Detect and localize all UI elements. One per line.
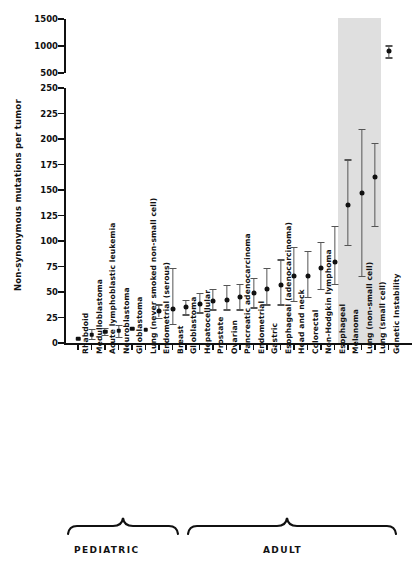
data-point xyxy=(238,295,243,300)
y-tick-mark xyxy=(58,113,64,115)
x-axis-label: Lung (small cell) xyxy=(378,281,387,354)
x-tick-mark xyxy=(145,345,147,350)
y-tick-mark xyxy=(58,72,64,74)
error-bar-cap xyxy=(196,293,203,294)
x-axis-label: Genetic Instability xyxy=(392,273,401,354)
data-point xyxy=(386,49,391,54)
x-tick-mark xyxy=(199,345,201,350)
x-axis-label: Glioblastoma xyxy=(189,297,198,354)
bracket-label-adult: ADULT xyxy=(263,545,302,555)
x-axis-label: Medulloblastoma xyxy=(95,279,104,354)
x-tick-mark xyxy=(307,345,309,350)
y-tick-label: 100 xyxy=(40,236,58,246)
x-tick-mark xyxy=(239,345,241,350)
error-bar-cap xyxy=(331,226,338,227)
x-tick-mark xyxy=(131,345,133,350)
x-tick-mark xyxy=(104,345,106,350)
error-bar-cap xyxy=(277,304,284,305)
y-tick-label: 175 xyxy=(40,160,58,170)
x-axis-label: Esophageal (adenocarcinoma) xyxy=(284,222,293,354)
x-tick-mark xyxy=(158,345,160,350)
data-point xyxy=(184,305,189,310)
data-point xyxy=(346,203,351,208)
error-bar-cap xyxy=(385,45,392,46)
y-tick-mark xyxy=(58,342,64,344)
y-tick-mark xyxy=(58,317,64,319)
y-tick-label: 200 xyxy=(40,134,58,144)
data-point xyxy=(373,174,378,179)
x-axis-label: Head and neck xyxy=(297,289,306,354)
x-tick-mark xyxy=(91,345,93,350)
error-bar xyxy=(374,143,375,226)
y-tick-mark xyxy=(58,189,64,191)
x-axis-label: Hepatocellular xyxy=(203,290,212,354)
x-tick-mark xyxy=(253,345,255,350)
x-axis-label: Endometrial (serous) xyxy=(162,262,171,354)
x-tick-mark xyxy=(320,345,322,350)
x-axis-label: Colorectal xyxy=(311,310,320,354)
x-axis-label: Pancreatic adenocarcinoma xyxy=(243,233,252,354)
x-tick-mark xyxy=(293,345,295,350)
y-tick-mark xyxy=(58,18,64,20)
y-tick-mark xyxy=(58,138,64,140)
error-bar-cap xyxy=(304,251,311,252)
y-tick-label: 75 xyxy=(46,262,58,272)
x-axis-label: Neuroblastoma xyxy=(122,287,131,354)
x-axis-label: Glioblastoma xyxy=(135,297,144,354)
x-axis-label: Lung (non-small cell) xyxy=(365,262,374,354)
y-tick-label: 1500 xyxy=(34,14,58,24)
x-tick-mark xyxy=(77,345,79,350)
error-bar-cap xyxy=(385,57,392,58)
x-axis-label: Rhabdoid xyxy=(81,313,90,354)
error-bar-cap xyxy=(372,226,379,227)
y-tick-label: 500 xyxy=(40,68,58,78)
error-bar-cap xyxy=(358,129,365,130)
x-axis-label: Esophageal xyxy=(338,304,347,354)
data-point xyxy=(319,265,324,270)
y-tick-mark xyxy=(58,291,64,293)
bracket-label-pediatric: PEDIATRIC xyxy=(74,545,139,555)
error-bar xyxy=(361,129,362,276)
y-tick-mark xyxy=(58,266,64,268)
y-tick-mark xyxy=(58,215,64,217)
x-tick-mark xyxy=(226,345,228,350)
x-tick-mark xyxy=(172,345,174,350)
error-bar xyxy=(172,268,173,324)
chart-figure: Non-synonymous mutations per tumor 50010… xyxy=(0,0,415,580)
y-axis-upper-line xyxy=(64,19,66,73)
y-tick-label: 150 xyxy=(40,185,58,195)
x-tick-mark xyxy=(374,345,376,350)
y-tick-mark xyxy=(58,240,64,242)
y-tick-mark xyxy=(58,87,64,89)
data-point xyxy=(76,337,81,342)
x-axis-label: Gastric xyxy=(270,323,279,354)
y-tick-mark xyxy=(58,45,64,47)
data-point xyxy=(265,286,270,291)
x-axis-label: Non-Hodgkin lymphoma xyxy=(324,249,333,354)
y-tick-label: 225 xyxy=(40,109,58,119)
data-point xyxy=(359,191,364,196)
x-axis-label: Breast xyxy=(176,325,185,354)
y-tick-label: 50 xyxy=(46,287,58,297)
x-axis-label: Lung (never smoked non-small cell) xyxy=(149,198,158,354)
x-axis-label: Prostate xyxy=(216,317,225,354)
x-axis-label: Ovarian xyxy=(230,320,239,354)
x-tick-mark xyxy=(334,345,336,350)
x-tick-mark xyxy=(388,345,390,350)
error-bar-cap xyxy=(223,285,230,286)
data-point xyxy=(278,282,283,287)
x-axis-label: Endometrial xyxy=(257,301,266,354)
y-axis-lower-line xyxy=(64,88,66,344)
x-tick-mark xyxy=(266,345,268,350)
x-tick-mark xyxy=(361,345,363,350)
x-axis-label: Melanoma xyxy=(351,309,360,354)
error-bar-cap xyxy=(223,309,230,310)
error-bar-cap xyxy=(264,268,271,269)
y-tick-label: 250 xyxy=(40,83,58,93)
error-bar-cap xyxy=(345,245,352,246)
x-tick-mark xyxy=(347,345,349,350)
error-bar-cap xyxy=(372,143,379,144)
error-bar-cap xyxy=(358,276,365,277)
y-tick-label: 125 xyxy=(40,211,58,221)
x-tick-mark xyxy=(212,345,214,350)
